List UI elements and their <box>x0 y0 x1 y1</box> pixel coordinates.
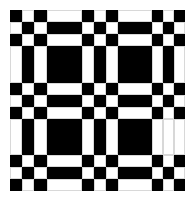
pattern-cell <box>163 119 174 155</box>
pattern-cell <box>152 167 163 179</box>
pattern-cell <box>22 179 34 191</box>
pattern-cell <box>94 119 106 155</box>
pattern-cell <box>34 179 47 191</box>
pattern-cell <box>47 10 82 22</box>
pattern-cell <box>152 46 163 83</box>
pattern-cell <box>34 119 47 155</box>
pattern-cell <box>82 10 94 22</box>
pattern-cell <box>94 34 106 46</box>
pattern-cell <box>152 95 163 107</box>
pattern-cell <box>106 167 118 179</box>
pattern-cell <box>10 167 22 179</box>
pattern-cell <box>22 119 34 155</box>
pattern-cell <box>10 95 22 107</box>
pattern-cell <box>47 46 82 83</box>
pattern-cell <box>152 107 163 119</box>
pattern-cell <box>152 34 163 46</box>
pattern-cell <box>152 179 163 191</box>
pattern-cell <box>94 95 106 107</box>
pattern-cell <box>152 119 163 155</box>
pattern-cell <box>10 10 22 22</box>
pattern-cell <box>118 46 152 83</box>
pattern-cell <box>34 10 47 22</box>
pattern-cell <box>106 119 118 155</box>
pattern-cell <box>94 83 106 95</box>
pattern-cell <box>94 155 106 167</box>
pattern-cell <box>47 34 82 46</box>
pattern-cell <box>174 95 185 107</box>
pattern-cell <box>174 10 185 22</box>
pattern-cell <box>163 22 174 34</box>
pattern-cell <box>174 179 185 191</box>
pattern-cell <box>82 107 94 119</box>
pattern-cell <box>22 83 34 95</box>
pattern-cell <box>118 107 152 119</box>
pattern-cell <box>163 179 174 191</box>
pattern-cell <box>22 155 34 167</box>
pattern-cell <box>34 107 47 119</box>
pattern-cell <box>163 34 174 46</box>
pattern-cell <box>82 22 94 34</box>
pattern-cell <box>94 10 106 22</box>
pattern-cell <box>94 46 106 83</box>
pattern-cell <box>10 34 22 46</box>
pattern-cell <box>118 34 152 46</box>
pattern-cell <box>10 107 22 119</box>
pattern-cell <box>82 167 94 179</box>
pattern-cell <box>163 167 174 179</box>
pattern-cell <box>174 119 185 155</box>
pattern-cell <box>82 46 94 83</box>
pattern-cell <box>174 167 185 179</box>
pattern-cell <box>47 179 82 191</box>
pattern-cell <box>174 155 185 167</box>
pattern-cell <box>118 155 152 167</box>
pattern-cell <box>34 95 47 107</box>
pattern-cell <box>118 22 152 34</box>
pattern-cell <box>47 167 82 179</box>
pattern-cell <box>152 155 163 167</box>
pattern-cell <box>152 22 163 34</box>
pattern-cell <box>82 119 94 155</box>
pattern-cell <box>22 46 34 83</box>
pattern-cell <box>163 95 174 107</box>
pattern-cell <box>94 107 106 119</box>
pattern-cell <box>10 83 22 95</box>
pattern-cell <box>47 119 82 155</box>
pattern-cell <box>34 167 47 179</box>
pattern-cell <box>106 22 118 34</box>
pattern-cell <box>106 34 118 46</box>
pattern-cell <box>22 107 34 119</box>
pattern-cell <box>174 34 185 46</box>
pattern-cell <box>34 155 47 167</box>
pattern-cell <box>47 22 82 34</box>
pattern-cell <box>22 34 34 46</box>
pattern-cell <box>22 10 34 22</box>
pattern-cell <box>10 46 22 83</box>
pattern-cell <box>10 179 22 191</box>
pattern-cell <box>22 22 34 34</box>
pattern-cell <box>82 95 94 107</box>
pattern-cell <box>10 22 22 34</box>
pattern-cell <box>106 95 118 107</box>
pattern-cell <box>82 34 94 46</box>
pattern-cell <box>10 155 22 167</box>
pattern-cell <box>94 22 106 34</box>
pattern-cell <box>118 10 152 22</box>
pattern-cell <box>174 83 185 95</box>
pattern-cell <box>34 46 47 83</box>
pattern-cell <box>47 83 82 95</box>
pattern-cell <box>163 155 174 167</box>
pattern-cell <box>34 22 47 34</box>
pattern-cell <box>152 83 163 95</box>
pattern-cell <box>118 95 152 107</box>
pattern-cell <box>106 10 118 22</box>
pattern-cell <box>174 46 185 83</box>
pattern-cell <box>47 155 82 167</box>
pattern-cell <box>82 179 94 191</box>
pattern-cell <box>174 107 185 119</box>
pattern-cell <box>34 34 47 46</box>
pattern-cell <box>118 83 152 95</box>
pattern-cell <box>22 95 34 107</box>
pattern-cell <box>163 83 174 95</box>
pattern-cell <box>106 107 118 119</box>
